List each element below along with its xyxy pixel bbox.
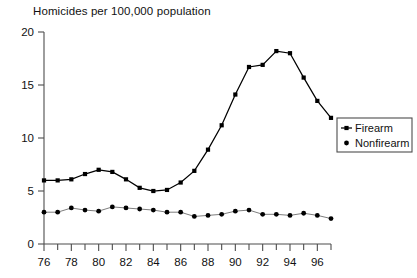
chart-axes <box>44 32 331 244</box>
x-axis-ticks <box>44 244 331 251</box>
x-tick-label: 86 <box>174 256 187 268</box>
series-nonfirearm <box>42 205 334 221</box>
series-firearm <box>42 49 333 193</box>
data-point-marker-dot <box>178 210 183 215</box>
data-point-marker-square <box>206 148 210 152</box>
y-tick-label: 20 <box>21 26 34 38</box>
data-point-marker-dot <box>274 212 279 217</box>
data-point-marker-dot <box>206 213 211 218</box>
y-axis-tick-labels: 05101520 <box>21 26 34 250</box>
legend-label: Nonfirearm <box>355 137 409 149</box>
chart-legend: FirearmNonfirearm <box>337 118 412 152</box>
data-point-marker-square <box>69 177 73 181</box>
data-point-marker-dot <box>55 210 60 215</box>
x-tick-label: 92 <box>256 256 269 268</box>
data-point-marker-dot <box>219 212 224 217</box>
data-point-marker-square <box>165 188 169 192</box>
legend-label: Firearm <box>355 122 393 134</box>
data-point-marker-dot <box>151 208 156 213</box>
x-tick-label: 84 <box>147 256 160 268</box>
data-point-marker-dot <box>329 216 334 221</box>
x-tick-label: 78 <box>65 256 78 268</box>
data-point-marker-dot <box>165 210 170 215</box>
data-point-marker-dot <box>233 209 238 214</box>
data-point-marker-dot <box>96 209 101 214</box>
legend-marker-dot <box>344 141 349 146</box>
data-point-marker-square <box>302 75 306 79</box>
data-point-marker-dot <box>247 208 252 213</box>
data-point-marker-dot <box>192 214 197 219</box>
y-tick-label: 5 <box>28 185 34 197</box>
data-point-marker-square <box>329 116 333 120</box>
x-tick-label: 76 <box>38 256 51 268</box>
data-point-marker-square <box>124 177 128 181</box>
x-tick-label: 96 <box>311 256 324 268</box>
series-line <box>44 207 331 219</box>
data-point-marker-dot <box>301 211 306 216</box>
data-point-marker-square <box>97 168 101 172</box>
data-point-marker-dot <box>124 206 129 211</box>
data-point-marker-square <box>274 49 278 53</box>
x-tick-label: 94 <box>284 256 297 268</box>
data-point-marker-square <box>179 180 183 184</box>
data-point-marker-square <box>220 123 224 127</box>
x-tick-label: 88 <box>202 256 215 268</box>
data-point-marker-square <box>288 51 292 55</box>
x-axis-tick-labels: 7678808284868890929496 <box>38 256 324 268</box>
data-point-marker-square <box>261 63 265 67</box>
data-point-marker-square <box>138 186 142 190</box>
data-point-marker-square <box>83 172 87 176</box>
y-tick-label: 15 <box>21 79 34 91</box>
y-tick-label: 0 <box>28 238 34 250</box>
series-line <box>44 51 331 191</box>
data-point-marker-square <box>233 92 237 96</box>
data-point-marker-square <box>151 189 155 193</box>
data-point-marker-dot <box>110 205 115 210</box>
legend-marker-square <box>344 126 348 130</box>
data-point-marker-square <box>42 178 46 182</box>
y-tick-label: 10 <box>21 132 34 144</box>
data-point-marker-square <box>247 65 251 69</box>
data-point-marker-dot <box>69 206 74 211</box>
x-tick-label: 90 <box>229 256 242 268</box>
x-tick-label: 82 <box>120 256 133 268</box>
data-point-marker-dot <box>288 213 293 218</box>
data-point-marker-dot <box>137 207 142 212</box>
data-point-marker-dot <box>260 212 265 217</box>
data-point-marker-square <box>56 178 60 182</box>
data-point-marker-square <box>110 170 114 174</box>
data-point-marker-dot <box>83 208 88 213</box>
chart-figure: Homicides per 100,000 population 0510152… <box>0 0 417 278</box>
data-point-marker-dot <box>315 213 320 218</box>
data-point-marker-square <box>315 99 319 103</box>
data-point-marker-dot <box>42 210 47 215</box>
x-tick-label: 80 <box>92 256 105 268</box>
chart-plot-area: 05101520 7678808284868890929496 FirearmN… <box>0 0 417 278</box>
data-point-marker-square <box>192 169 196 173</box>
